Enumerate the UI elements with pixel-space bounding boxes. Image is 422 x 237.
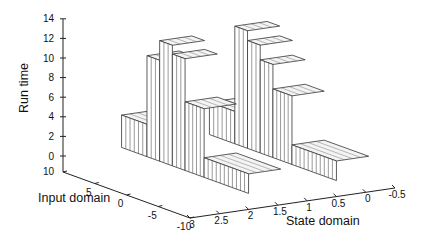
svg-text:6: 6 (48, 92, 54, 103)
svg-text:0: 0 (365, 193, 371, 204)
svg-text:4: 4 (48, 111, 54, 122)
svg-text:2.5: 2.5 (214, 215, 228, 226)
svg-text:0: 0 (118, 198, 124, 209)
svg-text:10: 10 (43, 166, 55, 177)
svg-text:10: 10 (43, 53, 55, 64)
z-axis: 02468101214 (43, 13, 66, 172)
svg-text:0.5: 0.5 (331, 198, 345, 209)
svg-text:-5: -5 (148, 210, 157, 221)
svg-text:0: 0 (48, 151, 54, 162)
z-axis-label: Run time (17, 63, 31, 113)
x-axis-label: Input domain (38, 191, 110, 205)
bars (122, 21, 369, 193)
3d-bar-chart: 02468101214 1050-5-10 32.521.510.50-0.5 … (0, 0, 422, 237)
svg-text:8: 8 (48, 72, 54, 83)
svg-text:3: 3 (189, 219, 195, 230)
svg-text:14: 14 (43, 13, 55, 24)
svg-text:1: 1 (306, 202, 312, 213)
y-axis-label: State domain (286, 214, 360, 228)
svg-text:2: 2 (248, 210, 254, 221)
svg-text:2: 2 (48, 131, 54, 142)
svg-text:-0.5: -0.5 (388, 189, 406, 200)
svg-text:12: 12 (43, 33, 55, 44)
